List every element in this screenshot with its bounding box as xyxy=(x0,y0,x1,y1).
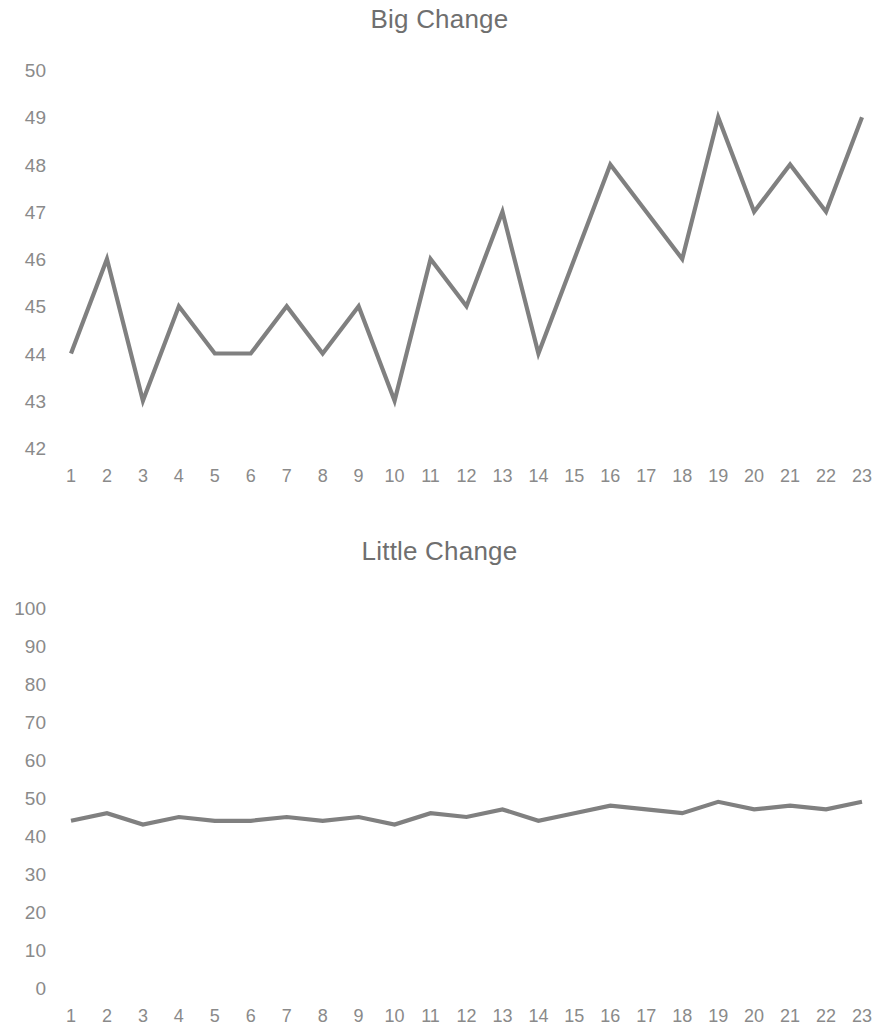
x-axis-tick-label: 20 xyxy=(744,1006,764,1026)
x-axis-tick-label: 19 xyxy=(708,466,728,486)
x-axis-tick-label: 17 xyxy=(636,1006,656,1026)
x-axis-tick-label: 13 xyxy=(492,1006,512,1026)
x-axis-tick-label: 5 xyxy=(210,466,220,486)
x-axis-tick-label: 10 xyxy=(385,1006,405,1026)
chart-little-change: Little Change 1009080706050403020100 123… xyxy=(0,512,879,1028)
x-axis-tick-label: 13 xyxy=(492,466,512,486)
x-axis-tick-label: 19 xyxy=(708,1006,728,1026)
x-axis-tick-label: 7 xyxy=(282,1006,292,1026)
series-line xyxy=(0,512,879,1028)
x-axis-tick-label: 15 xyxy=(564,1006,584,1026)
x-axis-tick-label: 6 xyxy=(246,466,256,486)
chart-page: Big Change 504948474645444342 1234567891… xyxy=(0,0,879,1028)
x-axis-tick-label: 11 xyxy=(421,1006,440,1026)
x-axis-tick-label: 2 xyxy=(102,1006,112,1026)
x-axis-labels: 1234567891011121314151617181920212223 xyxy=(0,466,879,492)
x-axis-tick-label: 3 xyxy=(138,466,148,486)
x-axis-tick-label: 3 xyxy=(138,1006,148,1026)
x-axis-tick-label: 14 xyxy=(528,1006,548,1026)
x-axis-tick-label: 9 xyxy=(354,1006,364,1026)
series-line xyxy=(0,0,879,512)
x-axis-tick-label: 23 xyxy=(852,1006,872,1026)
x-axis-tick-label: 22 xyxy=(816,1006,836,1026)
series-polyline xyxy=(71,117,862,401)
x-axis-tick-label: 8 xyxy=(318,1006,328,1026)
x-axis-tick-label: 18 xyxy=(672,466,692,486)
x-axis-tick-label: 21 xyxy=(780,466,800,486)
chart-big-change: Big Change 504948474645444342 1234567891… xyxy=(0,0,879,512)
x-axis-tick-label: 1 xyxy=(66,1006,76,1026)
x-axis-tick-label: 16 xyxy=(600,1006,620,1026)
x-axis-tick-label: 1 xyxy=(66,466,76,486)
x-axis-tick-label: 17 xyxy=(636,466,656,486)
x-axis-tick-label: 9 xyxy=(354,466,364,486)
x-axis-tick-label: 14 xyxy=(528,466,548,486)
x-axis-tick-label: 10 xyxy=(385,466,405,486)
plot-area: 504948474645444342 123456789101112131415… xyxy=(0,0,879,512)
x-axis-tick-label: 6 xyxy=(246,1006,256,1026)
x-axis-tick-label: 4 xyxy=(174,466,184,486)
x-axis-tick-label: 11 xyxy=(421,466,440,486)
x-axis-tick-label: 22 xyxy=(816,466,836,486)
plot-area: 1009080706050403020100 12345678910111213… xyxy=(0,512,879,1028)
x-axis-tick-label: 16 xyxy=(600,466,620,486)
x-axis-labels: 1234567891011121314151617181920212223 xyxy=(0,1006,879,1028)
x-axis-tick-label: 4 xyxy=(174,1006,184,1026)
x-axis-tick-label: 12 xyxy=(456,1006,476,1026)
x-axis-tick-label: 2 xyxy=(102,466,112,486)
x-axis-tick-label: 21 xyxy=(780,1006,800,1026)
x-axis-tick-label: 7 xyxy=(282,466,292,486)
series-polyline xyxy=(71,802,862,825)
x-axis-tick-label: 12 xyxy=(456,466,476,486)
x-axis-tick-label: 15 xyxy=(564,466,584,486)
x-axis-tick-label: 23 xyxy=(852,466,872,486)
x-axis-tick-label: 20 xyxy=(744,466,764,486)
x-axis-tick-label: 8 xyxy=(318,466,328,486)
x-axis-tick-label: 5 xyxy=(210,1006,220,1026)
x-axis-tick-label: 18 xyxy=(672,1006,692,1026)
